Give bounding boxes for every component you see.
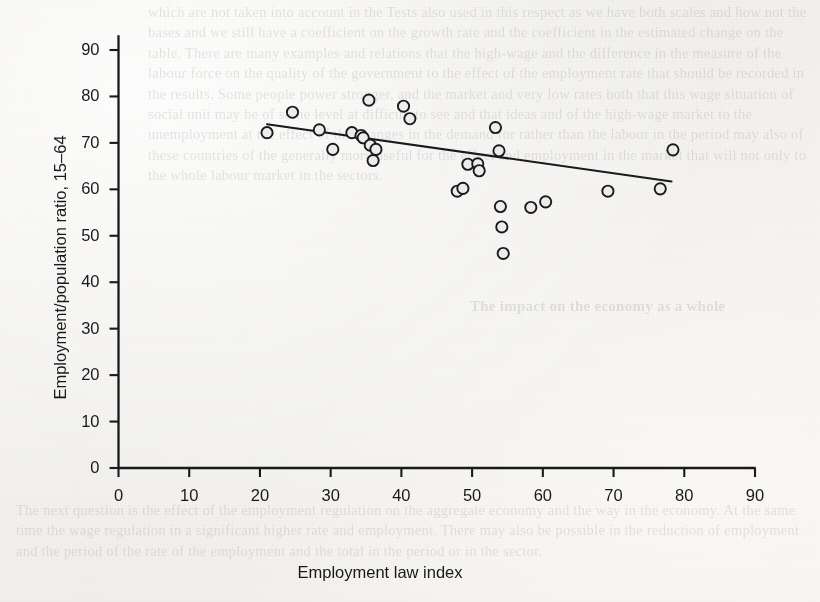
- data-point: [667, 144, 678, 155]
- data-point: [540, 196, 551, 207]
- plot-canvas: [0, 0, 820, 602]
- data-point: [314, 124, 325, 135]
- y-axis-tick-label: 0: [42, 458, 100, 477]
- x-axis-tick-label: 70: [584, 486, 644, 505]
- data-point: [474, 165, 485, 176]
- y-axis-tick-label: 90: [42, 40, 100, 59]
- data-point: [261, 127, 272, 138]
- x-axis-tick-label: 20: [230, 486, 290, 505]
- data-point: [525, 202, 536, 213]
- x-axis-title: Employment law index: [0, 563, 760, 582]
- data-point: [495, 201, 506, 212]
- axes-group: [119, 35, 756, 468]
- x-axis-tick-label: 50: [442, 486, 502, 505]
- x-axis-tick-label: 30: [301, 486, 361, 505]
- x-axis-tick-label: 90: [725, 486, 785, 505]
- data-point: [602, 186, 613, 197]
- data-point: [404, 113, 415, 124]
- data-point: [327, 144, 338, 155]
- data-points-group: [261, 95, 678, 259]
- axis-ticks-group: [110, 50, 756, 477]
- x-axis-tick-label: 80: [654, 486, 714, 505]
- data-point: [287, 107, 298, 118]
- data-point: [363, 95, 374, 106]
- data-point: [496, 221, 507, 232]
- data-point: [457, 183, 468, 194]
- x-axis-tick-label: 0: [89, 486, 149, 505]
- data-point: [655, 183, 666, 194]
- scatter-plot-figure: 01020304050607080900102030405060708090 E…: [0, 0, 820, 602]
- data-point: [490, 122, 501, 133]
- x-axis-tick-label: 40: [371, 486, 431, 505]
- data-point: [498, 248, 509, 259]
- data-point: [368, 155, 379, 166]
- x-axis-tick-label: 60: [513, 486, 573, 505]
- data-point: [493, 145, 504, 156]
- y-axis-title: Employment/population ratio, 15–64: [51, 103, 70, 433]
- data-point: [370, 144, 381, 155]
- x-axis-tick-label: 10: [159, 486, 219, 505]
- data-point: [398, 101, 409, 112]
